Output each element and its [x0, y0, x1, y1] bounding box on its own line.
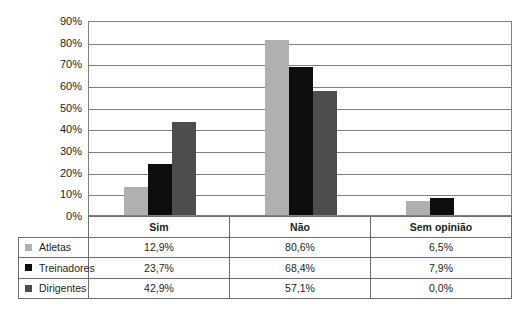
plot-wrapper — [88, 21, 512, 216]
category-header-sim: Sim — [89, 217, 230, 238]
legend-swatch-icon — [25, 264, 32, 271]
legend-item-dirigentes: Dirigentes — [19, 278, 89, 299]
table-corner-cell — [19, 217, 89, 238]
plot-area — [88, 21, 512, 216]
legend-label: Treinadores — [39, 262, 95, 274]
data-table-wrapper: SimNãoSem opiniãoAtletas12,9%80,6%6,5%Tr… — [18, 216, 512, 298]
table-cell-value: 7,9% — [371, 258, 512, 279]
y-axis-tick-label: 50% — [0, 102, 82, 113]
table-cell-value: 57,1% — [230, 278, 371, 299]
chart-figure: 0%10%20%30%40%50%60%70%80%90% SimNãoSem … — [0, 0, 524, 311]
y-axis-tick-label: 10% — [0, 189, 82, 200]
legend-label: Dirigentes — [39, 282, 86, 294]
legend-item-atletas: Atletas — [19, 237, 89, 258]
table-cell-value: 23,7% — [89, 258, 230, 279]
category-header-sem-opinião: Sem opinião — [371, 217, 512, 238]
bar — [265, 40, 289, 215]
bar — [148, 164, 172, 215]
legend-label: Atletas — [39, 241, 71, 253]
bars-layer — [89, 22, 511, 215]
y-axis-tick-labels: 0%10%20%30%40%50%60%70%80%90% — [0, 0, 82, 216]
y-axis-tick-label: 80% — [0, 37, 82, 48]
y-axis-tick-label: 20% — [0, 167, 82, 178]
y-axis-tick-label: 90% — [0, 16, 82, 27]
bar — [172, 122, 196, 215]
bar — [406, 201, 430, 215]
y-axis-tick-label: 40% — [0, 124, 82, 135]
table-header-row: SimNãoSem opinião — [19, 217, 512, 238]
category-header-não: Não — [230, 217, 371, 238]
bar — [313, 91, 337, 215]
bar — [430, 198, 454, 215]
table-row: Atletas12,9%80,6%6,5% — [19, 237, 512, 258]
data-table: SimNãoSem opiniãoAtletas12,9%80,6%6,5%Tr… — [18, 216, 512, 299]
table-cell-value: 0,0% — [371, 278, 512, 299]
y-axis-tick-label: 70% — [0, 59, 82, 70]
table-row: Treinadores23,7%68,4%7,9% — [19, 258, 512, 279]
legend-item-treinadores: Treinadores — [19, 258, 89, 279]
y-axis-tick-label: 60% — [0, 81, 82, 92]
table-cell-value: 42,9% — [89, 278, 230, 299]
table-cell-value: 80,6% — [230, 237, 371, 258]
table-cell-value: 12,9% — [89, 237, 230, 258]
bar — [124, 187, 148, 215]
legend-swatch-icon — [25, 244, 32, 251]
legend-swatch-icon — [25, 285, 32, 292]
table-cell-value: 6,5% — [371, 237, 512, 258]
y-axis-tick-label: 30% — [0, 146, 82, 157]
table-cell-value: 68,4% — [230, 258, 371, 279]
bar — [289, 67, 313, 215]
table-row: Dirigentes42,9%57,1%0,0% — [19, 278, 512, 299]
